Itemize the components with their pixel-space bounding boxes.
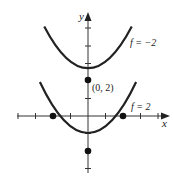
y-axis-label: y: [78, 10, 84, 22]
point-0-neg2: [85, 148, 92, 155]
point-0-2: [85, 77, 92, 84]
level-curves-chart: y x (0, 2) f = −2 f = 2: [0, 0, 174, 177]
x-axis-label: x: [161, 117, 167, 129]
point-neg2-0: [50, 113, 57, 120]
curve-label-f-neg2: f = −2: [130, 37, 156, 48]
point-2-0: [120, 113, 127, 120]
point-label-0-2: (0, 2): [92, 82, 114, 94]
x-axis: [17, 113, 170, 120]
curve-label-f-2: f = 2: [131, 101, 151, 112]
y-axis-arrow-icon: [85, 12, 92, 21]
